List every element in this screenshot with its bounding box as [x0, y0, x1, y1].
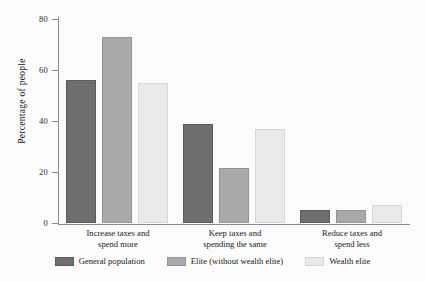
y-tick-label-80: 80 [22, 14, 48, 24]
x-label-reduce-taxes: Reduce taxes and spend less [277, 228, 425, 250]
legend-label: General population [79, 256, 145, 266]
bar-wealth-elite-keep[interactable] [255, 129, 285, 223]
legend-swatch-icon [167, 257, 186, 266]
legend-label: Elite (without wealth elite) [191, 256, 283, 266]
bar-group-increase-taxes [66, 19, 170, 223]
bar-wealth-elite-reduce[interactable] [372, 205, 402, 223]
x-label-line: Reduce taxes and [277, 228, 425, 239]
bar-general-population-keep[interactable] [183, 124, 213, 223]
y-axis-title: Percentage of people [17, 35, 27, 167]
legend-swatch-icon [305, 257, 324, 266]
legend-swatch-icon [55, 257, 74, 266]
chart-legend: General population Elite (without wealth… [0, 256, 425, 266]
legend-item-general-population[interactable]: General population [55, 256, 145, 266]
x-label-line: spend less [277, 239, 425, 250]
bar-general-population-reduce[interactable] [300, 210, 330, 223]
y-tick-label-60: 60 [22, 65, 48, 75]
bar-elite-reduce[interactable] [336, 210, 366, 223]
legend-label: Wealth elite [329, 256, 370, 266]
y-tick-0 [52, 223, 58, 224]
bar-group-reduce-taxes [300, 19, 404, 223]
bar-wealth-elite-increase[interactable] [138, 83, 168, 223]
y-tick-label-0: 0 [22, 218, 48, 228]
legend-item-wealth-elite[interactable]: Wealth elite [305, 256, 370, 266]
bar-group-keep-taxes [183, 19, 287, 223]
bar-elite-increase[interactable] [102, 37, 132, 223]
y-tick-label-40: 40 [22, 116, 48, 126]
x-axis-line [58, 224, 410, 225]
legend-item-elite[interactable]: Elite (without wealth elite) [167, 256, 283, 266]
bar-elite-keep[interactable] [219, 168, 249, 223]
y-tick-label-20: 20 [22, 167, 48, 177]
bar-chart: Percentage of people 80 60 40 20 0 [0, 0, 425, 281]
bar-general-population-increase[interactable] [66, 80, 96, 223]
plot-area [58, 19, 410, 223]
